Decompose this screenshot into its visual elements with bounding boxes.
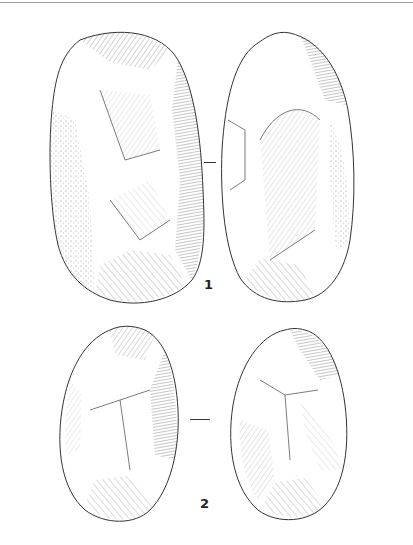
artefact-2-face-b [231,329,347,520]
artefact-1-face-b [222,32,354,301]
artefact-2-face-a [60,326,178,521]
section-dash-1 [204,162,216,163]
lithic-drawings [0,0,413,545]
artefact-1-face-a [50,32,204,303]
figure-label-2: 2 [200,496,209,511]
section-dash-2 [190,419,210,420]
figure-label-1: 1 [204,277,213,292]
